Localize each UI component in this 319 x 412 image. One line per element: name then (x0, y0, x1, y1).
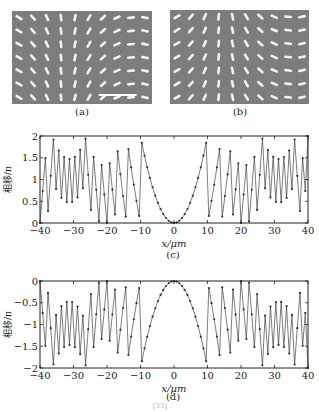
svg-text:1.5: 1.5 (22, 152, 38, 163)
svg-text:10: 10 (201, 225, 214, 236)
svg-text:−1.5: −1.5 (14, 341, 38, 352)
svg-text:相移/π: 相移/π (2, 166, 13, 193)
svg-text:30: 30 (268, 225, 281, 236)
svg-text:−0.5: −0.5 (14, 297, 38, 308)
svg-text:−30: −30 (63, 370, 84, 381)
svg-text:0: 0 (32, 276, 38, 287)
svg-text:x/μm: x/μm (162, 238, 187, 249)
svg-text:0.5: 0.5 (22, 196, 38, 207)
phase-chart-d: −40−30−20−10010203040−2−1.5−1−0.50x/μm相移… (0, 273, 319, 405)
nanoantenna-array-b (170, 10, 309, 104)
svg-text:−2: −2 (23, 363, 38, 374)
micrograph-a (12, 11, 152, 104)
svg-text:−30: −30 (63, 225, 84, 236)
svg-text:−20: −20 (96, 370, 117, 381)
panel-label-b: (b) (220, 106, 260, 117)
svg-text:40: 40 (302, 225, 315, 236)
svg-text:−10: −10 (130, 225, 151, 236)
svg-text:相移/π: 相移/π (2, 311, 13, 338)
svg-text:−20: −20 (96, 225, 117, 236)
micrograph-b (170, 10, 309, 104)
svg-text:−10: −10 (130, 370, 151, 381)
svg-text:1: 1 (32, 174, 38, 185)
svg-text:2: 2 (32, 131, 38, 142)
svg-text:30: 30 (268, 370, 281, 381)
panel-label-c: (c) (153, 249, 193, 260)
panel-label-a: (a) (62, 106, 102, 117)
figure-caption: [33] (60, 402, 260, 410)
svg-text:20: 20 (235, 370, 248, 381)
svg-text:0: 0 (171, 370, 177, 381)
nanoantenna-array-a (12, 11, 152, 104)
svg-text:0: 0 (32, 218, 38, 229)
svg-text:20: 20 (235, 225, 248, 236)
panel-label-d: (d) (153, 391, 193, 402)
svg-text:10: 10 (201, 370, 214, 381)
svg-text:0: 0 (171, 225, 177, 236)
svg-text:40: 40 (302, 370, 315, 381)
phase-chart-c: −40−30−20−1001020304000.511.52x/μm相移/π (0, 128, 319, 260)
caption-ref: [33] (153, 402, 167, 410)
svg-text:−1: −1 (23, 319, 38, 330)
